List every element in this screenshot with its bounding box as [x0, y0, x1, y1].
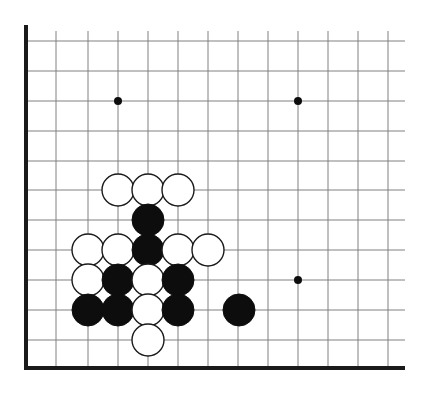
black-stone[interactable] — [162, 294, 194, 326]
hoshi-upper-right-icon — [294, 97, 302, 105]
board-background — [0, 0, 426, 396]
black-stone[interactable] — [102, 264, 134, 296]
white-stone[interactable] — [132, 174, 164, 206]
white-stone[interactable] — [102, 174, 134, 206]
white-stone[interactable] — [72, 234, 104, 266]
white-stone[interactable] — [132, 294, 164, 326]
white-stone[interactable] — [132, 264, 164, 296]
white-stone[interactable] — [162, 234, 194, 266]
hoshi-lower-right-icon — [294, 276, 302, 284]
black-stone[interactable] — [72, 294, 104, 326]
white-stone[interactable] — [132, 324, 164, 356]
hoshi-upper-left-icon — [114, 97, 122, 105]
white-stone[interactable] — [102, 234, 134, 266]
black-stone[interactable] — [132, 204, 164, 236]
go-board-canvas[interactable] — [0, 0, 426, 396]
white-stone[interactable] — [162, 174, 194, 206]
white-stone[interactable] — [72, 264, 104, 296]
go-board-diagram — [0, 0, 426, 396]
black-stone[interactable] — [132, 234, 164, 266]
black-stone[interactable] — [102, 294, 134, 326]
white-stone[interactable] — [192, 234, 224, 266]
black-stone[interactable] — [223, 294, 255, 326]
black-stone[interactable] — [162, 264, 194, 296]
